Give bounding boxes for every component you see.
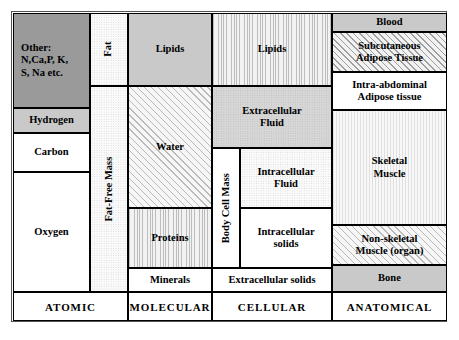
cell-other-elements-label: Other: N,Ca,P, K, S, Na etc. <box>14 42 70 79</box>
cell-blood-label: Blood <box>374 16 404 28</box>
cell-extracellular-fluid-label: Extracellular Fluid <box>240 105 303 130</box>
cell-intracellular-solids: Intracellular solids <box>240 208 332 268</box>
cell-non-skeletal-muscle-label: Non-skeletal Muscle (organ) <box>354 233 426 258</box>
cell-proteins-label: Proteins <box>149 232 190 244</box>
cell-skeletal-muscle: Skeletal Muscle <box>332 110 447 225</box>
cell-subcutaneous-adipose-tissue-label: Subcutaneous Adipose Tissue <box>354 40 425 65</box>
cell-subcutaneous-adipose-tissue: Subcutaneous Adipose Tissue <box>332 32 447 72</box>
cell-minerals: Minerals <box>128 268 212 292</box>
cell-lipids-molecular-label: Lipids <box>154 43 187 55</box>
cell-intra-abdominal-adipose-tissue-label: Intra-abdominal Adipose tissue <box>350 79 429 104</box>
level-label-molecular: MOLECULAR <box>128 292 212 321</box>
cell-body-cell-mass: Body Cell Mass <box>212 148 240 268</box>
cell-extracellular-solids: Extracellular solids <box>212 268 332 292</box>
cell-non-skeletal-muscle: Non-skeletal Muscle (organ) <box>332 225 447 265</box>
cell-blood: Blood <box>332 13 447 32</box>
cell-water-label: Water <box>154 141 186 153</box>
cell-intracellular-solids-label: Intracellular solids <box>255 226 316 251</box>
level-label-cellular-text: CELLULAR <box>238 301 306 313</box>
cell-body-cell-mass-label: Body Cell Mass <box>220 171 232 245</box>
cell-bone-label: Bone <box>376 272 403 284</box>
cell-proteins: Proteins <box>128 208 212 268</box>
level-label-anatomical-text: ANATOMICAL <box>347 301 433 313</box>
cell-minerals-label: Minerals <box>148 274 192 286</box>
cell-hydrogen: Hydrogen <box>13 108 90 133</box>
level-label-atomic-text: ATOMIC <box>45 301 96 313</box>
cell-fat-free-mass-label: Fat-Free Mass <box>103 155 115 224</box>
cell-extracellular-solids-label: Extracellular solids <box>226 274 317 286</box>
cell-extracellular-fluid: Extracellular Fluid <box>212 86 332 148</box>
cell-oxygen-label: Oxygen <box>32 226 70 238</box>
level-label-anatomical: ANATOMICAL <box>332 292 447 321</box>
cell-water: Water <box>128 86 212 208</box>
cell-intracellular-fluid-label: Intracellular Fluid <box>255 166 316 191</box>
cell-fat-free-mass: Fat-Free Mass <box>90 86 128 292</box>
cell-skeletal-muscle-label: Skeletal Muscle <box>370 155 410 180</box>
cell-carbon: Carbon <box>13 133 90 172</box>
cell-lipids-molecular: Lipids <box>128 13 212 86</box>
level-label-cellular: CELLULAR <box>212 292 332 321</box>
cell-fat-label: Fat <box>103 40 115 59</box>
body-composition-diagram: Other: N,Ca,P, K, S, Na etc. Hydrogen Ca… <box>0 0 459 340</box>
cell-hydrogen-label: Hydrogen <box>27 114 76 126</box>
cell-carbon-label: Carbon <box>32 146 70 158</box>
cell-lipids-cellular: Lipids <box>212 13 332 86</box>
cell-lipids-cellular-label: Lipids <box>256 43 289 55</box>
cell-oxygen: Oxygen <box>13 172 90 292</box>
cell-other-elements: Other: N,Ca,P, K, S, Na etc. <box>13 13 90 108</box>
cell-intracellular-fluid: Intracellular Fluid <box>240 148 332 208</box>
level-label-atomic: ATOMIC <box>13 292 128 321</box>
cell-bone: Bone <box>332 265 447 292</box>
cell-fat: Fat <box>90 13 128 86</box>
cell-intra-abdominal-adipose-tissue: Intra-abdominal Adipose tissue <box>332 72 447 110</box>
level-label-molecular-text: MOLECULAR <box>130 301 211 313</box>
